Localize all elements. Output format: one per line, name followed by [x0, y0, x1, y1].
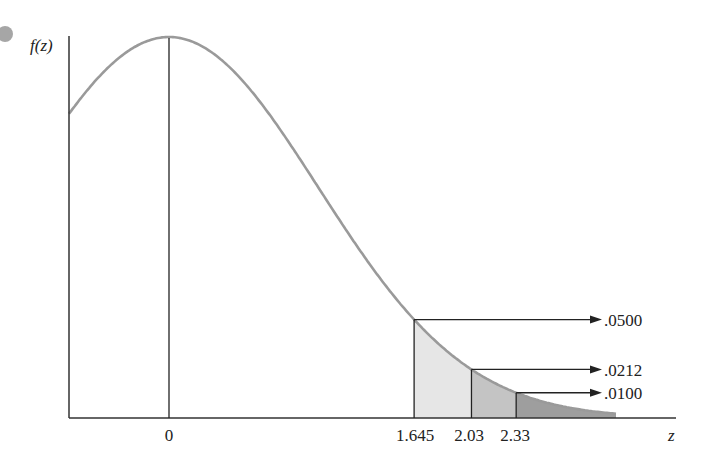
- area-label-0500: .0500: [604, 311, 642, 330]
- shaded-region: [472, 370, 517, 419]
- arrowhead-icon: [590, 316, 602, 324]
- density-curve: [69, 37, 616, 414]
- arrowhead-icon: [590, 389, 602, 397]
- tick-label-233: 2.33: [500, 426, 530, 445]
- normal-distribution-diagram: f(z) z 0 1.645 2.03 2.33 .0500 .0212 .01…: [0, 0, 704, 469]
- y-axis-label: f(z): [30, 36, 53, 55]
- x-axis-label: z: [667, 426, 675, 445]
- tick-label-0: 0: [165, 426, 174, 445]
- tick-label-1645: 1.645: [396, 426, 434, 445]
- area-label-0100: .0100: [604, 384, 642, 403]
- shaded-region: [516, 393, 616, 418]
- arrowhead-icon: [590, 365, 602, 373]
- tail-shading: [414, 320, 616, 419]
- tick-label-203: 2.03: [454, 426, 484, 445]
- area-label-0212: .0212: [604, 361, 642, 380]
- bullet-icon: [0, 26, 13, 42]
- shaded-region: [414, 320, 471, 419]
